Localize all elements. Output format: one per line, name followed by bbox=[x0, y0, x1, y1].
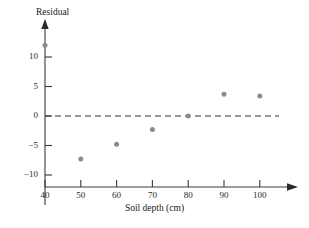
x-tick-label: 90 bbox=[212, 190, 236, 200]
x-tick-label: 70 bbox=[140, 190, 164, 200]
x-tick-label: 60 bbox=[105, 190, 129, 200]
data-point bbox=[114, 142, 119, 147]
y-tick-label: 5 bbox=[16, 81, 38, 91]
residual-plot: Residual Soil depth (cm) 10 5 0 −5 −10 4… bbox=[0, 0, 309, 228]
y-tick-label: −10 bbox=[16, 169, 38, 179]
y-axis-arrow-icon bbox=[41, 19, 48, 29]
x-axis-ticks bbox=[45, 180, 260, 187]
x-tick-label: 50 bbox=[69, 190, 93, 200]
y-tick-label: −5 bbox=[16, 140, 38, 150]
data-point bbox=[43, 43, 48, 48]
data-point bbox=[222, 92, 227, 97]
data-points bbox=[43, 43, 263, 162]
y-axis-title: Residual bbox=[36, 7, 69, 17]
data-point bbox=[186, 114, 191, 119]
data-point bbox=[257, 93, 262, 98]
x-axis-title: Soil depth (cm) bbox=[0, 203, 309, 213]
x-tick-label: 40 bbox=[33, 190, 57, 200]
x-tick-label: 100 bbox=[248, 190, 272, 200]
data-point bbox=[78, 157, 83, 162]
x-tick-label: 80 bbox=[176, 190, 200, 200]
x-axis-arrow-icon bbox=[287, 183, 298, 191]
y-tick-label: 0 bbox=[16, 110, 38, 120]
y-tick-label: 10 bbox=[16, 51, 38, 61]
data-point bbox=[150, 127, 155, 132]
